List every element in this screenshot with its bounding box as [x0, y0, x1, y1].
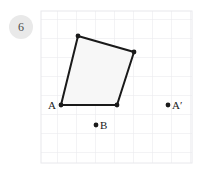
- vertex-dot-bottom-left: [59, 103, 64, 108]
- geometry-figure: A B A′: [0, 0, 203, 175]
- figure-screenshot: 6 A B: [0, 0, 203, 175]
- labeled-point-a: A: [48, 99, 56, 111]
- vertex-dot-top-left: [76, 34, 81, 39]
- vertex-dot-top-right: [132, 50, 137, 55]
- point-a-prime-dot: [166, 103, 171, 108]
- point-a-label: A: [48, 99, 56, 111]
- vertex-dot-bottom-right: [115, 103, 120, 108]
- point-b-dot: [94, 123, 99, 128]
- point-b-label: B: [100, 119, 107, 131]
- point-a-prime-label: A′: [172, 99, 182, 111]
